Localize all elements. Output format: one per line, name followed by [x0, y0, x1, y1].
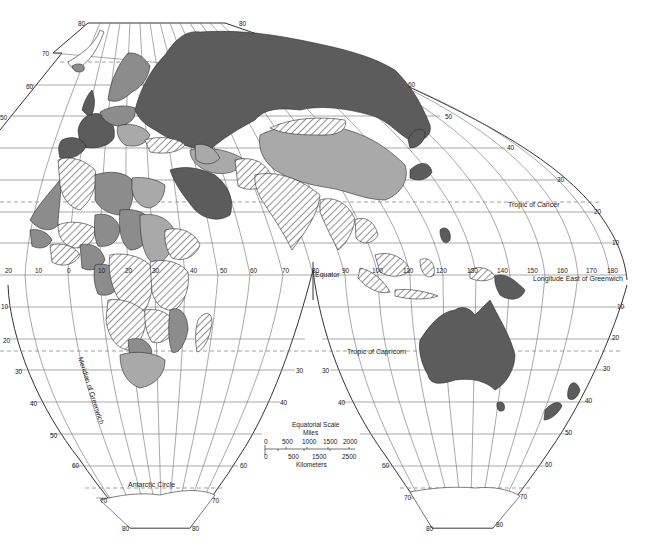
iraq: [195, 144, 220, 164]
lat-label: 40: [30, 400, 38, 407]
meridian-greenwich-label: Meridian of Greenwich: [77, 356, 105, 425]
philippines: [440, 228, 450, 243]
mali: [58, 222, 95, 248]
lat-label: 40: [338, 399, 346, 406]
lat-label: 80: [239, 20, 247, 27]
lat-label: 50: [445, 113, 453, 120]
lon-tick: 120: [436, 267, 447, 274]
niger: [94, 214, 120, 246]
miles-tick: 1500: [323, 438, 338, 445]
lat-label: 60: [26, 83, 34, 90]
lat-label: 70: [100, 497, 108, 504]
lat-label: 50: [565, 429, 573, 436]
lat-label: 80: [78, 20, 86, 27]
lat-label: 80: [122, 525, 130, 532]
lat-label: 10: [617, 303, 625, 310]
lat-label: 40: [507, 144, 515, 151]
mozambique: [169, 309, 188, 353]
lon-tick: 10: [35, 267, 43, 274]
km-tick: 500: [288, 453, 299, 460]
senegal: [30, 229, 52, 248]
lat-label: 80: [192, 525, 200, 532]
longitude-east-label: Longitude East of Greenwich: [533, 275, 623, 283]
lon-tick: 100: [372, 267, 383, 274]
lon-tick: 0: [67, 267, 71, 274]
spain: [59, 138, 86, 159]
scale-km-label: Kilometers: [296, 461, 327, 468]
lat-label: 10: [1, 303, 9, 310]
lat-label: 80: [426, 525, 434, 532]
tasmania: [497, 402, 505, 411]
lon-tick: 20: [125, 267, 133, 274]
south-africa: [120, 352, 165, 388]
lon-tick: 150: [527, 267, 538, 274]
saudi-arabia: [170, 168, 232, 220]
tropic-capricorn-label: Tropic of Capricorn: [347, 348, 406, 356]
lon-tick: 90: [342, 267, 350, 274]
lat-label: 20: [594, 208, 602, 215]
lat-label: 50: [0, 114, 8, 121]
lat-label: 70: [42, 50, 50, 57]
southern-outline: [8, 270, 627, 528]
equatorial-scale: Equatorial Scale Miles 0 500 1000 1500 2…: [264, 421, 358, 468]
lon-tick: 170: [586, 267, 597, 274]
antarctica-east: [410, 487, 520, 528]
lon-tick: 50: [220, 267, 228, 274]
world-map: Equator Tropic of Cancer Tropic of Capri…: [0, 0, 646, 551]
iceland: [72, 64, 84, 72]
lat-label: 70: [520, 493, 528, 500]
miles-tick: 500: [282, 438, 293, 445]
indochina: [320, 199, 355, 250]
miles-tick: 0: [264, 438, 268, 445]
lon-tick: 40: [190, 267, 198, 274]
egypt: [132, 177, 165, 208]
lat-label: 20: [3, 337, 11, 344]
australia: [419, 300, 515, 390]
lat-label: 40: [280, 399, 288, 406]
vietnam: [355, 218, 378, 243]
lon-tick: 70: [282, 267, 290, 274]
lat-label: 60: [240, 462, 248, 469]
sulawesi: [420, 259, 434, 277]
lon-tick: 80: [312, 267, 320, 274]
lon-tick: 140: [497, 267, 508, 274]
lat-label: 40: [585, 397, 593, 404]
ethiopia: [165, 229, 200, 260]
balkans: [117, 124, 150, 146]
scale-title: Equatorial Scale: [292, 421, 340, 429]
lat-label: 60: [382, 462, 390, 469]
tropic-cancer-label: Tropic of Cancer: [508, 201, 560, 209]
km-tick: 0: [264, 453, 268, 460]
lon-tick: 130: [467, 267, 478, 274]
lat-label: 60: [72, 462, 80, 469]
landmasses: [30, 30, 580, 528]
lat-label: 80: [496, 521, 504, 528]
lon-tick: 20: [5, 267, 13, 274]
lon-tick: 10: [98, 267, 106, 274]
lat-label: 30: [557, 176, 565, 183]
lon-tick: 110: [403, 267, 414, 274]
km-tick: 1500: [312, 453, 327, 460]
lon-tick: 180: [607, 267, 618, 274]
lat-label: 50: [50, 432, 58, 439]
lat-label: 60: [408, 81, 416, 88]
lat-label: 70: [212, 497, 220, 504]
lat-label: 60: [545, 461, 553, 468]
antarctic-circle-label: Antarctic Circle: [128, 481, 175, 488]
lat-label: 70: [404, 494, 412, 501]
lon-tick: 160: [557, 267, 568, 274]
libya: [95, 172, 133, 215]
miles-tick: 2000: [343, 438, 358, 445]
lat-label: 30: [296, 367, 304, 374]
lat-label: 30: [603, 365, 611, 372]
miles-tick: 1000: [302, 438, 317, 445]
papua-new-guinea: [495, 275, 525, 299]
madagascar: [196, 313, 212, 352]
western-sahara-mauritania: [30, 180, 61, 230]
scale-miles-label: Miles: [303, 429, 319, 436]
km-tick: 2500: [342, 453, 357, 460]
lat-label: 30: [322, 367, 330, 374]
lon-tick: 30: [152, 267, 160, 274]
java: [395, 289, 438, 299]
nz-north-island: [568, 383, 580, 400]
